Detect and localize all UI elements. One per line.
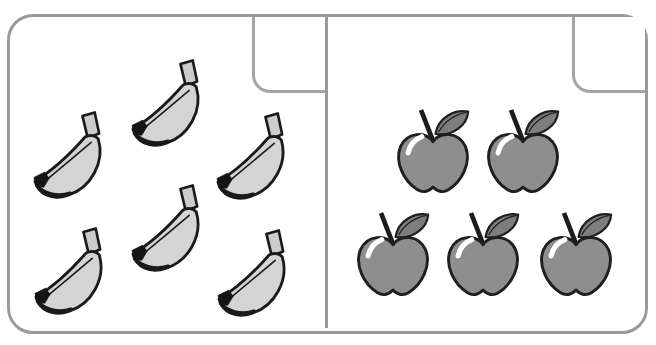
banana-icon bbox=[210, 109, 298, 204]
banana-body bbox=[133, 83, 198, 145]
apple-drawing bbox=[480, 104, 566, 200]
answer-box-bananas[interactable] bbox=[252, 17, 325, 93]
banana-drawing bbox=[125, 56, 213, 151]
apple-icon bbox=[390, 104, 476, 200]
banana-drawing bbox=[210, 109, 298, 204]
banana-body bbox=[219, 253, 284, 315]
banana-body bbox=[36, 251, 101, 313]
banana-drawing bbox=[27, 108, 115, 203]
apple-body bbox=[399, 135, 468, 192]
apple-drawing bbox=[350, 207, 436, 303]
apple-leaf bbox=[526, 111, 559, 134]
apple-icon bbox=[440, 207, 526, 303]
banana-icon bbox=[211, 226, 299, 321]
banana-icon bbox=[27, 108, 115, 203]
banana-drawing bbox=[211, 226, 299, 321]
banana-stem bbox=[180, 60, 197, 86]
apple-icon bbox=[480, 104, 566, 200]
banana-stem bbox=[266, 230, 283, 256]
banana-stem bbox=[82, 112, 99, 138]
apple-body bbox=[359, 238, 428, 295]
apple-leaf bbox=[579, 214, 612, 237]
banana-stem bbox=[180, 185, 197, 211]
banana-body bbox=[218, 136, 283, 198]
banana-icon bbox=[28, 224, 116, 319]
counting-worksheet bbox=[0, 0, 656, 345]
apple-icon bbox=[533, 207, 619, 303]
banana-icon bbox=[125, 181, 213, 276]
apple-icon bbox=[350, 207, 436, 303]
apple-body bbox=[449, 238, 518, 295]
apple-leaf bbox=[436, 111, 469, 134]
apple-drawing bbox=[390, 104, 476, 200]
apple-body bbox=[542, 238, 611, 295]
banana-stem bbox=[83, 228, 100, 254]
apple-leaf bbox=[396, 214, 429, 237]
apple-leaf bbox=[486, 214, 519, 237]
answer-box-apples[interactable] bbox=[572, 17, 645, 93]
banana-drawing bbox=[28, 224, 116, 319]
banana-drawing bbox=[125, 181, 213, 276]
banana-icon bbox=[125, 56, 213, 151]
apple-drawing bbox=[440, 207, 526, 303]
banana-body bbox=[133, 208, 198, 270]
banana-body bbox=[35, 135, 100, 197]
apple-drawing bbox=[533, 207, 619, 303]
banana-stem bbox=[265, 113, 282, 139]
apple-body bbox=[489, 135, 558, 192]
panel-divider bbox=[325, 17, 328, 328]
